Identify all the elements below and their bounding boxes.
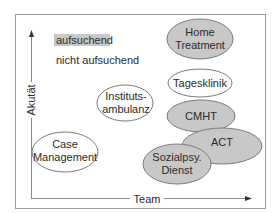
diagram-canvas: Akutät Team aufsuchend nicht aufsuchend … xyxy=(0,0,275,213)
node-institutsambulanz: Instituts- ambulanz xyxy=(97,85,153,121)
node-sozialpsy-dienst: Sozialpsy. Dienst xyxy=(143,144,211,184)
node-label-line: Tagesklinik xyxy=(173,77,227,89)
node-tagesklinik: Tagesklinik xyxy=(168,69,232,97)
node-label-line: CMHT xyxy=(185,110,217,122)
node-label-line: Case xyxy=(52,138,78,150)
node-label-line: Sozialpsy. xyxy=(152,151,201,163)
node-label-line: Instituts- xyxy=(105,90,147,102)
node-label-line: Management xyxy=(33,151,97,163)
node-label-line: Home xyxy=(185,26,214,38)
legend-item-nicht-aufsuchend: nicht aufsuchend xyxy=(56,54,139,66)
node-home-treatment: Home Treatment xyxy=(167,19,233,59)
node-label-line: ACT xyxy=(211,136,233,148)
y-axis-label: Akutät xyxy=(25,84,37,115)
node-cmht: CMHT xyxy=(167,100,235,132)
node-label-line: ambulanz xyxy=(102,103,150,115)
node-label-line: Treatment xyxy=(175,39,225,51)
x-axis-label: Team xyxy=(134,193,161,205)
node-label-line: Dienst xyxy=(161,164,192,176)
node-case-management: Case Management xyxy=(32,132,98,172)
legend-item-aufsuchend: aufsuchend xyxy=(56,34,113,46)
